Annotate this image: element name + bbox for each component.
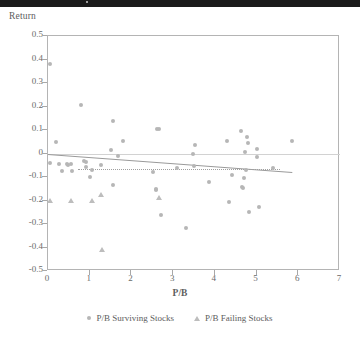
data-point-failing bbox=[47, 198, 53, 203]
y-tick-label: -0.4 bbox=[17, 242, 43, 251]
data-point-surviving bbox=[84, 160, 88, 164]
x-tick-mark bbox=[256, 270, 257, 275]
x-axis-title: P/B bbox=[0, 288, 360, 298]
data-point-failing bbox=[99, 247, 105, 252]
data-point-surviving bbox=[99, 163, 103, 167]
data-point-surviving bbox=[57, 162, 61, 166]
data-point-surviving bbox=[111, 119, 115, 123]
data-point-surviving bbox=[116, 154, 120, 158]
data-point-surviving bbox=[111, 183, 115, 187]
data-point-surviving bbox=[244, 168, 248, 172]
x-tick-label: 4 bbox=[204, 274, 224, 283]
data-point-surviving bbox=[225, 139, 229, 143]
data-point-surviving bbox=[230, 173, 234, 177]
data-point-surviving bbox=[255, 155, 259, 159]
legend-label: P/B Failing Stocks bbox=[205, 313, 273, 323]
data-point-surviving bbox=[290, 139, 294, 143]
y-tick-label: -0.2 bbox=[17, 195, 43, 204]
data-point-surviving bbox=[48, 161, 52, 165]
x-tick-mark bbox=[172, 270, 173, 275]
data-point-surviving bbox=[241, 186, 245, 190]
y-tick-label: 0.5 bbox=[17, 30, 43, 39]
data-point-surviving bbox=[70, 169, 74, 173]
x-tick-mark bbox=[130, 270, 131, 275]
x-tick-label: 3 bbox=[162, 274, 182, 283]
data-point-surviving bbox=[121, 139, 125, 143]
x-tick-label: 5 bbox=[246, 274, 266, 283]
data-point-surviving bbox=[243, 150, 247, 154]
data-point-surviving bbox=[90, 168, 94, 172]
y-tick-label: 0.3 bbox=[17, 77, 43, 86]
data-point-surviving bbox=[227, 200, 231, 204]
data-point-surviving bbox=[79, 103, 83, 107]
data-point-surviving bbox=[271, 166, 275, 170]
data-point-surviving bbox=[154, 188, 158, 192]
y-tick-label: -0.3 bbox=[17, 218, 43, 227]
x-tick-label: 2 bbox=[120, 274, 140, 283]
x-tick-label: 6 bbox=[287, 274, 307, 283]
data-point-surviving bbox=[60, 169, 64, 173]
data-point-surviving bbox=[207, 180, 211, 184]
data-point-surviving bbox=[191, 152, 195, 156]
scan-artifact-band bbox=[0, 0, 360, 7]
y-tick-mark bbox=[42, 270, 47, 271]
data-point-failing bbox=[98, 192, 104, 197]
plot-area bbox=[47, 35, 339, 270]
legend-entry: P/B Surviving Stocks bbox=[87, 313, 174, 323]
data-point-surviving bbox=[159, 213, 163, 217]
data-point-surviving bbox=[157, 127, 161, 131]
data-point-failing bbox=[89, 198, 95, 203]
x-tick-mark bbox=[89, 270, 90, 275]
data-point-surviving bbox=[54, 140, 58, 144]
legend-circle-icon bbox=[87, 316, 91, 320]
x-tick-label: 0 bbox=[37, 274, 57, 283]
data-point-surviving bbox=[245, 135, 249, 139]
data-point-failing bbox=[68, 198, 74, 203]
data-point-surviving bbox=[109, 148, 113, 152]
data-point-surviving bbox=[175, 166, 179, 170]
y-tick-label: 0 bbox=[17, 148, 43, 157]
y-tick-label: 0.1 bbox=[17, 124, 43, 133]
x-tick-mark bbox=[297, 270, 298, 275]
data-point-surviving bbox=[247, 210, 251, 214]
y-axis-title: Return bbox=[9, 11, 36, 21]
y-tick-label: 0.2 bbox=[17, 101, 43, 110]
legend-entry: P/B Failing Stocks bbox=[194, 313, 273, 323]
data-point-surviving bbox=[193, 143, 197, 147]
data-point-surviving bbox=[239, 129, 243, 133]
data-point-surviving bbox=[69, 162, 73, 166]
data-point-failing bbox=[156, 195, 162, 200]
y-tick-label: -0.5 bbox=[17, 265, 43, 274]
data-point-surviving bbox=[242, 176, 246, 180]
x-tick-label: 7 bbox=[329, 274, 349, 283]
x-tick-mark bbox=[214, 270, 215, 275]
y-tick-label: 0.4 bbox=[17, 54, 43, 63]
x-tick-label: 1 bbox=[79, 274, 99, 283]
y-tick-label: -0.1 bbox=[17, 171, 43, 180]
data-point-surviving bbox=[88, 175, 92, 179]
legend-label: P/B Surviving Stocks bbox=[96, 313, 174, 323]
chart-legend: P/B Surviving StocksP/B Failing Stocks bbox=[0, 313, 360, 323]
data-point-surviving bbox=[246, 141, 250, 145]
data-point-surviving bbox=[257, 205, 261, 209]
data-point-surviving bbox=[184, 226, 188, 230]
data-point-surviving bbox=[48, 62, 52, 66]
legend-triangle-icon bbox=[194, 316, 200, 321]
scatter-chart-figure: Return 0.50.40.30.20.10-0.1-0.2-0.3-0.4-… bbox=[0, 0, 360, 340]
data-point-surviving bbox=[255, 147, 259, 151]
data-point-surviving bbox=[151, 170, 155, 174]
